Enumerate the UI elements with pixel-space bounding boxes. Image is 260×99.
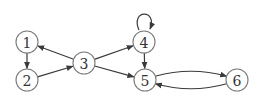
node-label: 1	[23, 35, 32, 51]
node-6: 6	[226, 69, 248, 91]
node-1: 1	[16, 31, 38, 53]
edge-4-to-4	[137, 14, 151, 30]
node-label: 4	[140, 35, 149, 51]
edge-2-to-3	[38, 66, 73, 77]
nodes-layer: 123456	[16, 31, 248, 91]
node-5: 5	[134, 69, 156, 91]
node-label: 5	[141, 73, 150, 89]
edges-layer	[27, 14, 227, 89]
edge-3-to-1	[38, 46, 74, 59]
directed-graph-diagram: 123456	[0, 0, 260, 99]
edge-3-to-5	[95, 66, 134, 77]
node-3: 3	[73, 52, 95, 74]
edge-5-to-6	[155, 71, 226, 76]
node-label: 3	[80, 56, 89, 72]
node-2: 2	[16, 69, 38, 91]
node-label: 2	[23, 73, 32, 89]
edge-6-to-5	[155, 84, 226, 89]
edge-3-to-4	[94, 46, 133, 60]
node-4: 4	[133, 31, 155, 53]
node-label: 6	[233, 73, 242, 89]
